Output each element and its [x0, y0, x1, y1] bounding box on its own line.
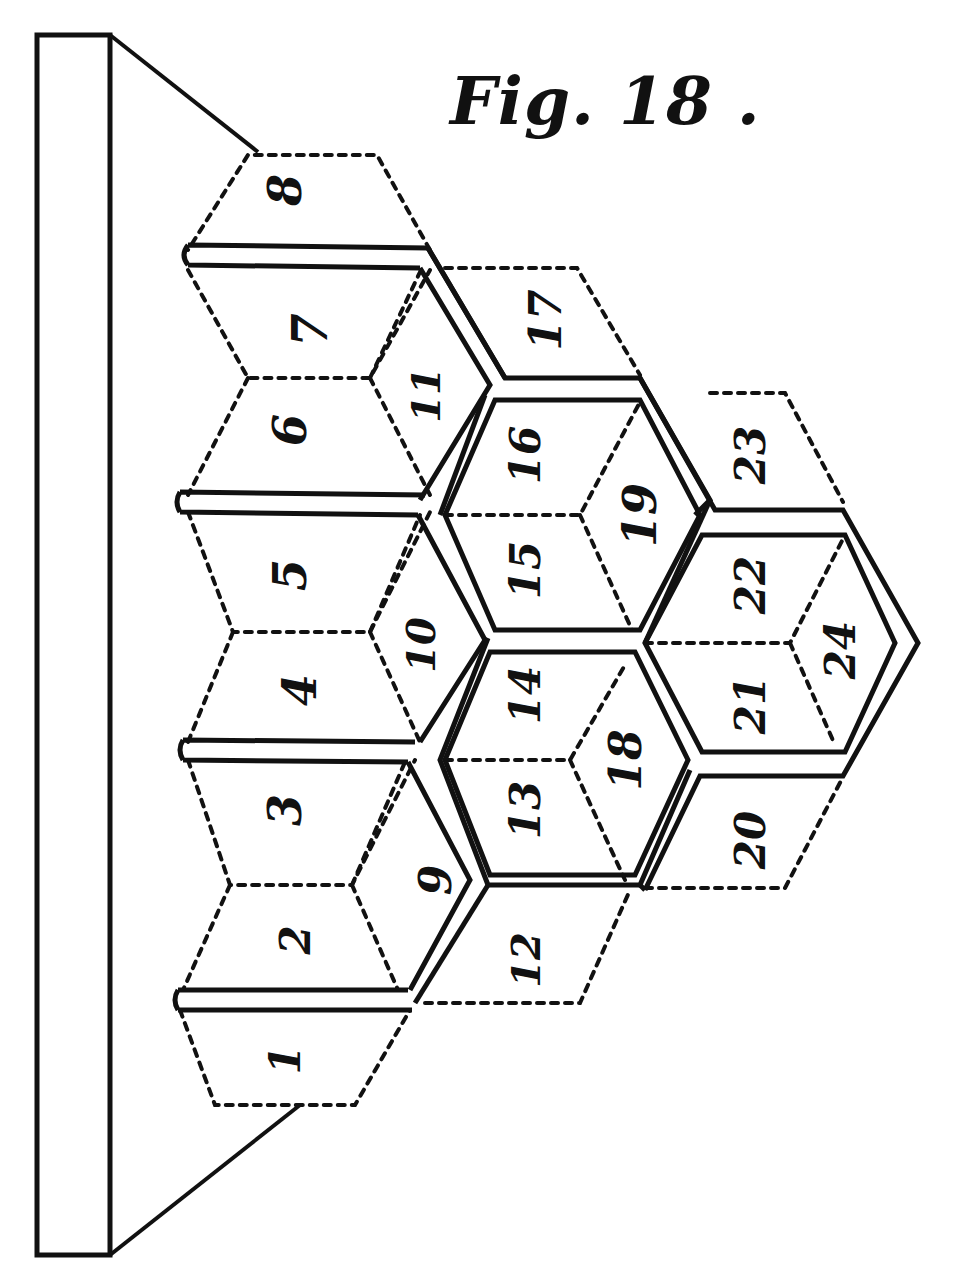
frame-outer-17 — [428, 248, 710, 515]
tile-label-21: 21 — [726, 676, 775, 735]
tile-11-top-edge — [370, 272, 420, 378]
tile-label-14: 14 — [501, 666, 550, 724]
tile-10-top-edge — [370, 515, 420, 632]
frame-outer-col3 — [640, 378, 918, 890]
tile-label-1: 1 — [261, 1045, 310, 1074]
tile-label-18: 18 — [600, 729, 651, 790]
tile-label-10: 10 — [397, 617, 444, 673]
tile-9-top-edge — [352, 762, 405, 885]
tile-4-left-edge — [188, 632, 233, 742]
tile-label-19: 19 — [613, 483, 667, 547]
tile-label-5: 5 — [263, 559, 317, 591]
tile-label-6: 6 — [263, 414, 317, 446]
tile-6-left-edge — [188, 378, 248, 495]
hexagonal-tile-diagram: 1 2 3 4 5 6 7 8 9 10 11 12 13 14 15 16 1… — [0, 0, 955, 1268]
tile-label-16: 16 — [501, 426, 550, 484]
tile-label-17: 17 — [520, 289, 571, 351]
solid-cell-frames — [175, 245, 918, 1010]
hex-13-14-18 — [445, 652, 688, 875]
wall-board — [37, 35, 110, 1255]
lower-brace — [110, 1105, 300, 1255]
shelf-top — [184, 245, 428, 268]
tile-2-left-edge — [183, 885, 230, 990]
tile-label-11: 11 — [402, 367, 449, 423]
tile-label-2: 2 — [271, 925, 320, 955]
tile-2-right-edge — [352, 885, 398, 990]
tile-label-13: 13 — [501, 781, 550, 839]
shelf-bottom — [175, 990, 412, 1010]
frame-tile-12 — [415, 885, 488, 1003]
upper-brace — [110, 35, 258, 152]
tile-label-9: 9 — [410, 865, 461, 896]
shelf-lower-middle — [180, 740, 415, 762]
tile-label-12: 12 — [502, 932, 549, 988]
tile-label-20: 20 — [726, 811, 775, 870]
tile-labels: 1 2 3 4 5 6 7 8 9 10 11 12 13 14 15 16 1… — [258, 174, 865, 1075]
tile-label-24: 24 — [816, 621, 865, 680]
tile-label-7: 7 — [282, 313, 338, 346]
shelf-upper-middle — [177, 492, 425, 515]
tile-label-3: 3 — [258, 794, 312, 826]
tile-label-4: 4 — [273, 674, 327, 706]
tile-label-15: 15 — [501, 541, 550, 599]
tile-label-8: 8 — [258, 174, 312, 207]
tile-label-23: 23 — [726, 426, 775, 485]
tile-label-22: 22 — [726, 556, 775, 615]
